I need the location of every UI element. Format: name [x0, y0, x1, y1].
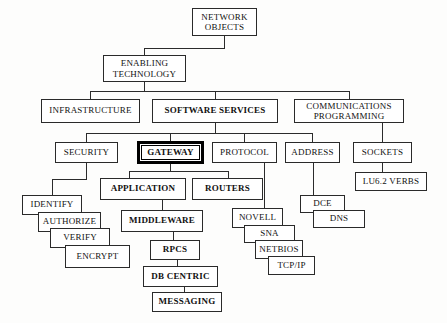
node-infrastructure[interactable]: INFRASTRUCTURE: [41, 99, 140, 123]
link-routers-up: [228, 171, 229, 178]
node-protocol[interactable]: PROTOCOL: [212, 142, 277, 163]
node-messaging[interactable]: MESSAGING: [152, 292, 222, 312]
link-network-objects-down: [224, 35, 225, 48]
diagram-canvas: NETWORK OBJECTS ENABLING TECHNOLOGY INFR…: [0, 0, 447, 323]
link-protocol-down: [264, 163, 265, 208]
link-enabling-technology-up: [144, 48, 145, 55]
link-infrastructure-up: [90, 91, 91, 99]
link-communications-programming-up: [349, 91, 350, 99]
node-db-centric[interactable]: DB CENTRIC: [143, 266, 218, 287]
link-address-up: [312, 133, 313, 142]
link-security-up: [86, 133, 87, 142]
link-middleware-down: [173, 232, 174, 240]
link-identify-up: [52, 179, 53, 195]
link-enabling-technology-down: [144, 82, 145, 91]
node-sockets[interactable]: SOCKETS: [353, 142, 412, 163]
link-network-objects-bus: [144, 48, 225, 49]
node-lu62-verbs[interactable]: LU6.2 VERBS: [355, 172, 427, 191]
node-security[interactable]: SECURITY: [55, 142, 118, 163]
link-sockets-up: [382, 123, 383, 142]
node-encrypt[interactable]: ENCRYPT: [65, 245, 130, 268]
node-middleware[interactable]: MIDDLEWARE: [121, 210, 203, 232]
node-rpcs[interactable]: RPCS: [150, 240, 200, 260]
link-application-down: [162, 200, 163, 210]
node-tcpip[interactable]: TCP/IP: [268, 256, 315, 275]
node-routers[interactable]: ROUTERS: [192, 178, 263, 200]
link-security-bus: [52, 179, 87, 180]
link-software-services-down: [215, 123, 216, 133]
node-communications-programming[interactable]: COMMUNICATIONS PROGRAMMING: [294, 99, 404, 123]
link-row4-bus: [86, 133, 313, 134]
node-application[interactable]: APPLICATION: [100, 178, 186, 200]
link-protocol-up: [244, 133, 245, 142]
link-lu62-verbs-up: [382, 163, 383, 172]
link-row3-bus: [90, 91, 349, 92]
link-address-down: [313, 163, 314, 195]
node-dns[interactable]: DNS: [313, 210, 365, 228]
node-gateway[interactable]: GATEWAY: [137, 141, 204, 164]
link-security-down: [86, 163, 87, 179]
link-application-up: [129, 171, 130, 178]
node-address[interactable]: ADDRESS: [285, 142, 340, 163]
link-software-services-up: [215, 91, 216, 99]
node-network-objects[interactable]: NETWORK OBJECTS: [192, 8, 257, 36]
link-gateway-down: [170, 164, 171, 171]
node-software-services[interactable]: SOFTWARE SERVICES: [152, 99, 278, 123]
link-gateway-bus: [129, 171, 228, 172]
node-enabling-technology[interactable]: ENABLING TECHNOLOGY: [103, 55, 186, 82]
